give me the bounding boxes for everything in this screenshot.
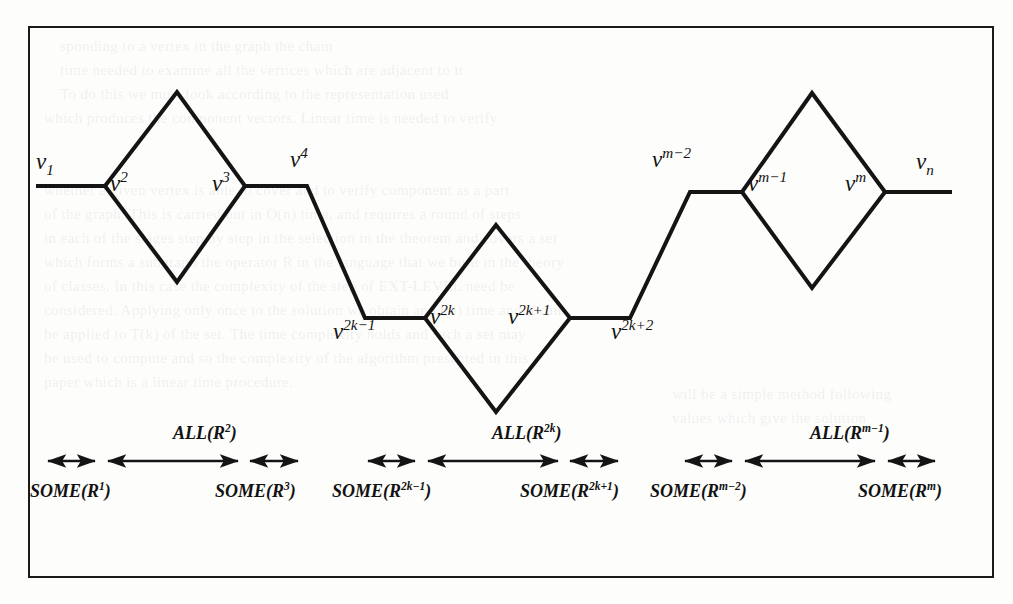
vertex-label-vm-2: vm−2	[652, 148, 691, 171]
graph-drawing	[0, 0, 1013, 604]
vertex-label-vn: vn	[916, 150, 934, 173]
diamond-2-lower-path	[425, 318, 570, 412]
some-label-some-R3: SOME(R3)	[215, 482, 296, 500]
all-label-all-R2: ALL(R2)	[173, 424, 237, 442]
vertex-label-vm: vm	[845, 172, 866, 195]
vertex-label-v1: v1	[36, 150, 54, 173]
vertex-label-v2k: v2k	[430, 305, 455, 328]
some-label-some-R1: SOME(R1)	[30, 482, 111, 500]
vertex-label-v2k+2: v2k+2	[611, 320, 653, 343]
vertex-label-v2k+1: v2k+1	[508, 305, 550, 328]
diamond-1-lower-path	[105, 186, 245, 282]
graph-edges	[36, 92, 952, 412]
all-label-all-Rm-1: ALL(Rm−1)	[810, 424, 890, 442]
vertex-label-v4: v4	[290, 148, 308, 171]
vertex-label-vm-1: vm−1	[748, 172, 787, 195]
some-label-some-Rm: SOME(Rm)	[858, 482, 942, 500]
vertex-label-v2k-1: v2k−1	[333, 320, 375, 343]
diamond-3-lower-path	[742, 192, 885, 288]
some-label-some-R2k-1: SOME(R2k−1)	[332, 482, 431, 500]
vertex-label-v3: v3	[212, 172, 230, 195]
figure-page: sponding to a vertex in the graph the ch…	[0, 0, 1013, 604]
vertex-label-v2: v2	[110, 172, 128, 195]
some-label-some-R2k+1: SOME(R2k+1)	[520, 482, 619, 500]
some-label-some-Rm-2: SOME(Rm−2)	[650, 482, 747, 500]
all-label-all-R2k: ALL(R2k)	[492, 424, 562, 442]
